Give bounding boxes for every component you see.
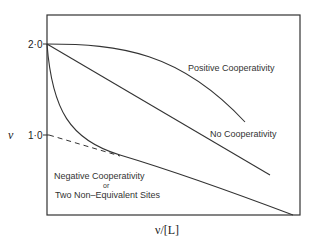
positive-cooperativity-curve	[47, 44, 245, 122]
scatchard-plot: 2·0 ν 1·0 Positive Cooperativity No Coop…	[0, 0, 318, 246]
label-two-non-equivalent-sites: Two Non–Equivalent Sites	[55, 190, 161, 200]
label-negative-cooperativity: Negative Cooperativity	[54, 171, 145, 181]
y-tick-label-2: 2·0	[28, 39, 43, 50]
y-tick-label-1: 1·0	[28, 130, 43, 141]
label-positive-cooperativity: Positive Cooperativity	[188, 63, 275, 73]
label-no-cooperativity: No Cooperativity	[210, 129, 277, 139]
x-axis-label: ν/[L]	[155, 223, 179, 237]
label-or: or	[103, 182, 110, 189]
y-axis-label: ν	[8, 128, 14, 142]
